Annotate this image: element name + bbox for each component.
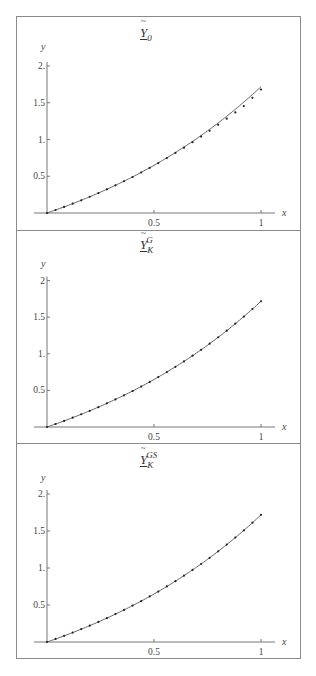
plot-area: 0.510.51.1.52.xy <box>17 17 300 230</box>
approx-data-point <box>191 141 193 143</box>
approx-data-point <box>114 184 116 186</box>
approx-data-point <box>132 604 134 606</box>
approx-data-point <box>217 550 219 552</box>
approx-data-point <box>260 514 262 516</box>
approx-data-point <box>80 199 82 201</box>
approx-data-point <box>63 420 65 422</box>
approx-data-point <box>106 617 108 619</box>
approx-data-point <box>226 544 228 546</box>
plot-panel-ykgs: YKGS 0.510.51.1.52.xy <box>17 444 300 658</box>
approx-data-point <box>209 343 211 345</box>
y-tick-label: 2 <box>40 276 45 286</box>
approx-data-point <box>209 130 211 132</box>
plot-area: 0.510.51.1.52.xy <box>17 444 300 658</box>
approx-data-point <box>251 97 253 99</box>
approx-data-point <box>209 557 211 559</box>
approx-data-point <box>140 600 142 602</box>
approx-data-point <box>226 330 228 332</box>
approx-data-point <box>183 575 185 577</box>
approx-data-point <box>46 212 48 214</box>
approx-data-point <box>132 390 134 392</box>
approx-data-point <box>200 563 202 565</box>
approx-data-point <box>106 188 108 190</box>
y-tick-label: 1.5 <box>33 98 45 108</box>
plot-panel-ykg: YKG 0.510.51.1.52xy <box>17 231 300 443</box>
approx-data-point <box>54 209 56 211</box>
x-tick-label: 1 <box>259 647 264 657</box>
x-tick-label: 0.5 <box>148 218 160 228</box>
approx-data-point <box>72 417 74 419</box>
approx-data-point <box>97 621 99 623</box>
approx-data-point <box>243 529 245 531</box>
approx-data-point <box>217 336 219 338</box>
approx-data-point <box>106 402 108 404</box>
approx-data-point <box>46 641 48 643</box>
approx-data-point <box>251 522 253 524</box>
approx-data-point <box>251 308 253 310</box>
x-axis-label: x <box>281 207 287 218</box>
y-tick-label: 2. <box>38 61 45 71</box>
x-tick-label: 0.5 <box>148 432 160 442</box>
approx-data-point <box>123 394 125 396</box>
approx-data-point <box>149 381 151 383</box>
approx-data-point <box>149 595 151 597</box>
exact-solution-curve <box>47 515 261 642</box>
y-tick-label: 0.5 <box>33 171 45 181</box>
y-tick-label: 0.5 <box>33 600 45 610</box>
y-tick-label: 1. <box>38 349 45 359</box>
approx-data-point <box>89 410 91 412</box>
approx-data-point <box>226 118 228 120</box>
y-tick-label: 1. <box>38 563 45 573</box>
y-tick-label: 0.5 <box>33 385 45 395</box>
approx-data-point <box>234 536 236 538</box>
approx-data-point <box>89 196 91 198</box>
approx-data-point <box>54 423 56 425</box>
x-tick-label: 1 <box>259 218 264 228</box>
approx-data-point <box>97 192 99 194</box>
approx-data-point <box>260 88 262 90</box>
approx-data-point <box>260 300 262 302</box>
exact-solution-curve <box>47 87 261 213</box>
approx-data-point <box>157 162 159 164</box>
approx-data-point <box>200 349 202 351</box>
x-tick-label: 0.5 <box>148 647 160 657</box>
y-tick-label: 1. <box>38 135 45 145</box>
y-axis-label: y <box>40 258 46 269</box>
y-tick-label: 1.5 <box>33 526 45 536</box>
approx-data-point <box>174 152 176 154</box>
approx-data-point <box>166 371 168 373</box>
approx-data-point <box>54 638 56 640</box>
approx-data-point <box>191 355 193 357</box>
y-tick-label: 2. <box>38 489 45 499</box>
plot-panel-y0: Y0 0.510.51.1.52.xy <box>17 17 300 230</box>
approx-data-point <box>114 613 116 615</box>
y-axis-label: y <box>40 472 46 483</box>
approx-data-point <box>157 376 159 378</box>
approx-data-point <box>191 569 193 571</box>
approx-data-point <box>243 105 245 107</box>
approx-data-point <box>63 206 65 208</box>
approx-data-point <box>63 635 65 637</box>
approx-data-point <box>97 406 99 408</box>
approx-data-point <box>183 360 185 362</box>
y-axis-label: y <box>40 41 46 52</box>
exact-solution-curve <box>47 301 261 427</box>
approx-data-point <box>114 398 116 400</box>
approx-data-point <box>140 385 142 387</box>
approx-data-point <box>140 171 142 173</box>
approx-data-point <box>174 366 176 368</box>
approx-data-point <box>89 625 91 627</box>
approx-data-point <box>217 124 219 126</box>
approx-data-point <box>183 147 185 149</box>
approx-data-point <box>80 628 82 630</box>
approx-data-point <box>157 590 159 592</box>
approx-data-point <box>234 323 236 325</box>
approx-data-point <box>80 413 82 415</box>
approx-data-point <box>123 180 125 182</box>
approx-data-point <box>174 580 176 582</box>
approx-data-point <box>72 203 74 205</box>
approx-data-point <box>234 111 236 113</box>
figure-frame: Y0 0.510.51.1.52.xy YKG 0.510.51.1.52xy … <box>16 16 301 659</box>
approx-data-point <box>149 167 151 169</box>
y-tick-label: 1.5 <box>33 312 45 322</box>
